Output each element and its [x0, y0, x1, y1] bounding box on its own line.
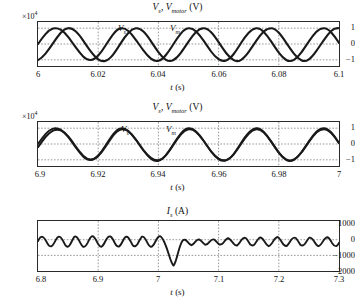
panel-2-plot-area	[37, 121, 340, 167]
panel-1-xtick-1: 6.02	[91, 69, 106, 79]
panel-1-xaxis-label: t (s)	[0, 82, 355, 92]
panel-1-xtick-0: 6	[36, 69, 40, 79]
panel-2-xaxis-label: t (s)	[0, 182, 355, 192]
panel-2-ytick-0: 1	[322, 122, 355, 132]
panel-2-xtick-5: 7	[337, 169, 341, 179]
panel-2-ytick-1: 0	[322, 138, 355, 148]
panel-3-ytick-1: 0	[321, 234, 355, 244]
panel-1-ytick-1: 0	[322, 38, 355, 48]
panel-is-current: Is (A) 1000 0 −1000 −200	[0, 200, 355, 305]
panel-2-xtick-2: 6.94	[151, 169, 166, 179]
panel-2-xtick-0: 6.9	[35, 169, 46, 179]
panel-3-xtick-1: 6.9	[93, 274, 104, 284]
panel-2-label-vmotor: Vm	[166, 124, 176, 136]
panel-3-xtick-2: 7	[156, 274, 160, 284]
panel-1-title: Vs, Vmotor (V)	[0, 2, 355, 14]
panel-3-xtick-5: 7.3	[334, 274, 345, 284]
panel-3-canvas	[38, 221, 339, 271]
panel-3-xaxis-label: t (s)	[0, 287, 355, 297]
panel-1-xtick-3: 6.06	[212, 69, 227, 79]
panel-1-xtick-5: 6.1	[334, 69, 345, 79]
panel-vs-vmotor-zoom1: Vs, Vmotor (V) ×104	[0, 0, 355, 100]
panel-1-curve-vs	[38, 28, 339, 61]
panel-3-title: Is (A)	[0, 206, 355, 218]
panel-1-xtick-2: 6.04	[151, 69, 166, 79]
panel-2-title: Vs, Vmotor (V)	[0, 102, 355, 114]
panel-1-multiplier: ×104	[22, 10, 37, 21]
panel-3-xtick-3: 7.1	[214, 274, 225, 284]
panel-2-canvas	[38, 122, 339, 166]
figure-root: Vs, Vmotor (V) ×104	[0, 0, 355, 305]
panel-2-curve-vmotor	[38, 129, 339, 160]
panel-3-xtick-4: 7.2	[274, 274, 285, 284]
panel-2-xtick-1: 6.92	[91, 169, 106, 179]
panel-3-plot-area	[37, 220, 340, 272]
panel-3-ytick-0: 1000	[321, 218, 355, 228]
panel-2-xtick-3: 6.96	[212, 169, 227, 179]
panel-1-label-vmotor: Vm	[170, 23, 180, 35]
panel-1-label-vs: Vs	[118, 23, 126, 35]
panel-2-ytick-2: −1	[322, 154, 355, 164]
panel-1-canvas	[38, 22, 339, 66]
panel-1-plot-area	[37, 21, 340, 67]
panel-3-xtick-0: 6.8	[36, 274, 47, 284]
panel-2-xtick-4: 6.98	[272, 169, 287, 179]
panel-1-xtick-4: 6.08	[272, 69, 287, 79]
panel-2-label-vs: Vs	[121, 124, 129, 136]
panel-1-ytick-2: −1	[322, 54, 355, 64]
panel-2-multiplier: ×104	[22, 110, 37, 121]
panel-vs-vmotor-zoom2: Vs, Vmotor (V) ×104	[0, 100, 355, 200]
panel-3-curve-is	[38, 236, 339, 265]
panel-3-ytick-2: −1000	[321, 250, 355, 260]
panel-1-ytick-0: 1	[322, 22, 355, 32]
